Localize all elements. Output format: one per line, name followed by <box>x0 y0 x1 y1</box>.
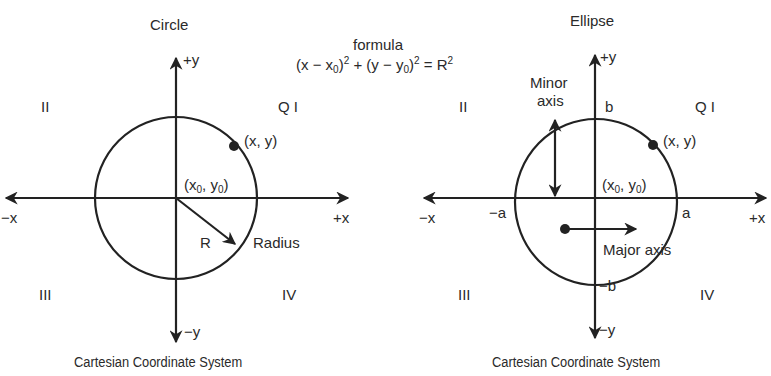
ellipse-quadrant-1: Q I <box>695 99 715 114</box>
circle-quadrant-1: Q I <box>278 99 298 114</box>
circle-pos-x-label: +x <box>333 210 349 225</box>
ellipse-pos-x-label: +x <box>749 210 765 225</box>
intercept-b-label: b <box>605 99 613 114</box>
ellipse-quadrant-2: II <box>459 99 467 114</box>
formula-heading: formula <box>353 37 403 52</box>
formula-equation: (x − x0)2 + (y − y0)2 = R2 <box>296 57 453 72</box>
circle-point-marker <box>229 141 239 151</box>
circle-caption: Cartesian Coordinate System <box>74 355 242 369</box>
circle-quadrant-2: II <box>41 99 49 114</box>
radius-symbol: R <box>200 235 211 250</box>
ellipse-title: Ellipse <box>570 13 614 28</box>
minor-axis-label-line2: axis <box>537 93 564 108</box>
circle-neg-x-label: −x <box>1 210 17 225</box>
ellipse-quadrant-4: IV <box>700 287 714 302</box>
ellipse-quadrant-3: III <box>458 287 471 302</box>
ellipse-neg-x-label: −x <box>419 210 435 225</box>
intercept-neg-b-label: −b <box>599 278 616 293</box>
intercept-a-label: a <box>682 205 690 220</box>
circle-quadrant-4: IV <box>282 287 296 302</box>
ellipse-point-label: (x, y) <box>663 133 696 148</box>
ellipse-point-marker <box>648 140 658 150</box>
ellipse-pos-y-label: +y <box>600 49 616 64</box>
major-axis-label: Major axis <box>603 242 671 257</box>
circle-neg-y-label: −y <box>184 324 200 339</box>
intercept-neg-a-label: −a <box>489 205 506 220</box>
minor-axis-label-line1: Minor <box>530 75 568 90</box>
circle-pos-y-label: +y <box>183 52 199 67</box>
circle-quadrant-3: III <box>39 287 52 302</box>
ellipse-center-label: (x0, y0) <box>602 177 646 192</box>
ellipse-caption: Cartesian Coordinate System <box>492 355 660 369</box>
circle-point-label: (x, y) <box>244 133 277 148</box>
radius-label: Radius <box>253 235 300 250</box>
circle-center-label: (x0, y0) <box>184 177 228 192</box>
circle-title: Circle <box>150 17 188 32</box>
ellipse-neg-y-label: −y <box>599 322 615 337</box>
